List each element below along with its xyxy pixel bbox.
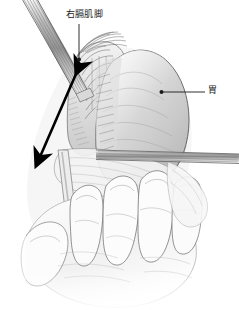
right-fade-mask	[196, 190, 239, 310]
label-right-crus-of-diaphragm: 右膈肌脚	[66, 9, 103, 20]
illustration-canvas	[0, 0, 239, 310]
surgical-illustration-figure: 右膈肌脚 胃	[0, 0, 239, 310]
label-stomach: 胃	[208, 85, 217, 96]
left-fade-mask	[0, 190, 26, 310]
